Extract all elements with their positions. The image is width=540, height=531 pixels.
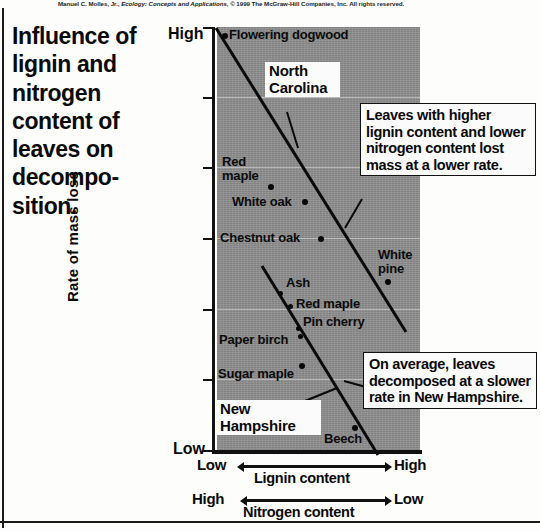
data-label-red-maple-nh: Red maple [296, 297, 360, 310]
new-hampshire-series-tag: New Hampshire [216, 400, 321, 435]
nitrogen-axis-right-label: Low [394, 490, 423, 507]
lignin-axis-caption: Lignin content [254, 470, 350, 486]
nitrogen-axis-left-label: High [192, 490, 224, 507]
y-axis-tick [203, 238, 214, 240]
data-label-sugar-maple: Sugar maple [218, 367, 294, 380]
lignin-axis-left-label: Low [197, 456, 226, 473]
y-axis-tick [203, 167, 214, 169]
y-axis-tick [203, 309, 214, 311]
data-point-chestnut-oak [318, 236, 324, 242]
data-label-white-pine: White pine [378, 248, 418, 275]
y-axis-tick [203, 379, 214, 381]
lignin-axis-line [243, 465, 385, 468]
data-point-ash [278, 291, 283, 296]
y-axis-tick [203, 97, 214, 99]
north-carolina-series-tag: North Carolina [265, 62, 340, 97]
data-point-paper-birch [298, 334, 303, 339]
nitrogen-axis-right-arrowhead [385, 496, 392, 506]
lignin-axis-right-label: High [394, 456, 426, 473]
x-axis-line [212, 450, 422, 454]
data-label-pin-cherry: Pin cherry [303, 315, 365, 328]
y-axis-title: Rate of mass loss [64, 147, 81, 327]
data-point-white-pine [385, 279, 391, 285]
data-label-chestnut-oak: Chestnut oak [220, 231, 300, 244]
data-label-white-oak: White oak [232, 195, 292, 208]
data-point-flowering-dogwood [222, 33, 228, 39]
data-point-white-oak [302, 199, 308, 205]
upper-annotation-callout: Leaves with higher lignin content and lo… [360, 103, 536, 176]
nitrogen-axis-caption: Nitrogen content [243, 504, 354, 520]
decomposition-scatter-chart: High Low Rate of mass loss Flowering dog… [0, 0, 540, 531]
data-label-paper-birch: Paper birch [219, 333, 288, 346]
data-label-beech: Beech [324, 432, 362, 445]
gridline [217, 97, 420, 98]
nitrogen-axis-line [246, 499, 385, 502]
lower-annotation-callout: On average, leaves decomposed at a slowe… [363, 352, 537, 409]
lignin-axis-right-arrowhead [385, 462, 392, 472]
data-label-red-maple-nc: Red maple [222, 155, 274, 182]
data-point-red-maple-nh [288, 304, 293, 309]
data-point-sugar-maple [299, 363, 305, 369]
data-point-red-maple-nc [268, 184, 274, 190]
y-axis-tick [203, 27, 214, 29]
data-point-pin-cherry [296, 326, 301, 331]
data-label-ash: Ash [286, 276, 310, 289]
data-label-flowering-dogwood: Flowering dogwood [229, 28, 348, 41]
y-axis-high-label: High [168, 25, 204, 43]
